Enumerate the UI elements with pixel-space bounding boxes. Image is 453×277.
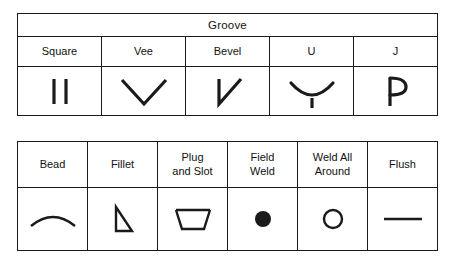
groove-section-table: Groove Square Vee Bevel U J — [17, 13, 438, 116]
other-symbol-cell-weld-all-around — [298, 188, 368, 251]
other-label-plug-and-slot-line2: and Slot — [158, 165, 227, 179]
groove-title-row: Groove — [18, 14, 438, 37]
j-groove-icon — [368, 71, 424, 111]
flush-weld-icon — [376, 202, 430, 236]
groove-label-square: Square — [18, 37, 102, 67]
groove-symbol-cell-bevel — [186, 67, 270, 116]
welding-symbols-chart: Groove Square Vee Bevel U J — [0, 0, 453, 277]
other-label-field-weld-line2: Weld — [228, 165, 297, 179]
other-label-bead-line1: Bead — [18, 158, 87, 172]
bead-weld-icon — [23, 202, 83, 236]
other-symbol-cell-field-weld — [228, 188, 298, 251]
groove-label-bevel: Bevel — [186, 37, 270, 67]
groove-symbol-cell-u — [270, 67, 354, 116]
other-symbol-cell-plug-and-slot — [158, 188, 228, 251]
groove-symbol-cell-j — [354, 67, 438, 116]
plug-and-slot-icon — [165, 202, 221, 236]
other-symbol-cell-fillet — [88, 188, 158, 251]
other-label-bead: Bead — [18, 142, 88, 188]
u-groove-icon — [277, 71, 347, 111]
other-label-weld-all-around: Weld All Around — [298, 142, 368, 188]
groove-label-j: J — [354, 37, 438, 67]
groove-label-u: U — [270, 37, 354, 67]
other-label-weld-all-around-line1: Weld All — [298, 151, 367, 165]
groove-symbol-cell-square — [18, 67, 102, 116]
other-symbol-row — [18, 188, 438, 251]
fillet-weld-icon — [101, 202, 145, 236]
bevel-groove-icon — [197, 71, 259, 111]
vee-groove-icon — [109, 71, 179, 111]
other-label-fillet-line1: Fillet — [88, 158, 157, 172]
other-label-fillet: Fillet — [88, 142, 158, 188]
other-symbol-cell-flush — [368, 188, 438, 251]
other-label-field-weld-line1: Field — [228, 151, 297, 165]
groove-label-vee: Vee — [102, 37, 186, 67]
groove-symbol-row — [18, 67, 438, 116]
other-symbols-section-table: Bead Fillet Plug and Slot Field Weld Wel… — [17, 141, 438, 251]
other-label-row: Bead Fillet Plug and Slot Field Weld Wel… — [18, 142, 438, 188]
weld-all-around-icon — [313, 202, 353, 236]
other-label-flush: Flush — [368, 142, 438, 188]
groove-label-row: Square Vee Bevel U J — [18, 37, 438, 67]
groove-symbol-cell-vee — [102, 67, 186, 116]
other-label-plug-and-slot-line1: Plug — [158, 151, 227, 165]
field-weld-icon — [243, 202, 283, 236]
square-groove-icon — [29, 71, 91, 111]
other-label-flush-line1: Flush — [368, 158, 437, 172]
other-symbol-cell-bead — [18, 188, 88, 251]
other-label-plug-and-slot: Plug and Slot — [158, 142, 228, 188]
groove-section-heading: Groove — [18, 14, 438, 37]
other-label-weld-all-around-line2: Around — [298, 165, 367, 179]
other-label-field-weld: Field Weld — [228, 142, 298, 188]
